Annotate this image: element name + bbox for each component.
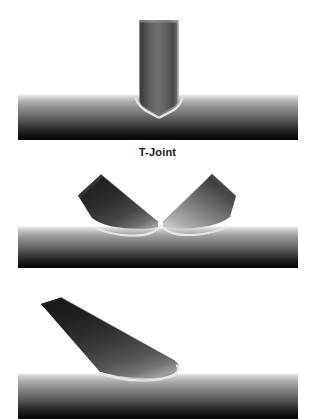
t-joint-vertical-brace [140, 20, 179, 114]
k-joint-left-brace [78, 175, 158, 229]
panel-t-joint: T-Joint [0, 0, 315, 165]
k-joint-illustration [0, 165, 315, 290]
t-joint-brace-left-rim [139, 20, 140, 102]
panel-k-joint: K-Joint [0, 165, 315, 290]
k-joint-right-brace [163, 174, 236, 229]
t-joint-illustration [0, 0, 315, 165]
y-joint-illustration [0, 290, 315, 419]
t-joint-brace-right-rim [177, 20, 178, 102]
t-joint-brace-end-cap [140, 20, 179, 23]
y-joint-inclined-brace [41, 298, 179, 379]
panel-y-joint [0, 290, 315, 419]
k-joint-chord-tube [18, 226, 298, 268]
caption-t-joint: T-Joint [0, 146, 315, 158]
tubular-joints-figure: T-Joint [0, 0, 315, 419]
